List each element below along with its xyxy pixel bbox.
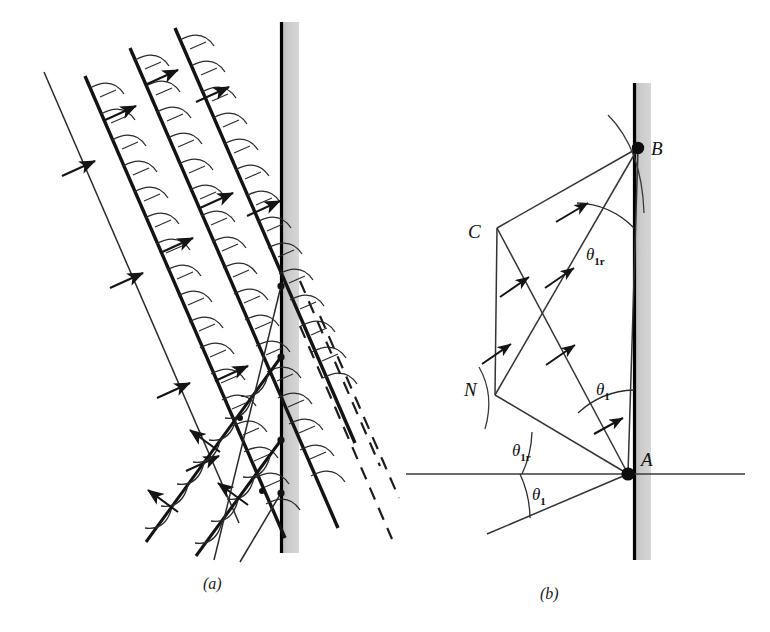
wavelet-arc-at-N xyxy=(479,367,489,429)
angle-label-theta1-A-bottom: θ1 xyxy=(532,485,546,507)
propagation-arrow xyxy=(62,161,95,176)
point-marker-A xyxy=(621,467,634,480)
point-label-C: C xyxy=(468,221,481,242)
huygens-wavelets xyxy=(180,35,357,384)
wavefront-line xyxy=(214,286,281,560)
propagation-arrow xyxy=(556,203,588,222)
angle-arcs xyxy=(520,203,634,518)
panel-b: B C N A θ1r θ1 θ1r θ1 xyxy=(406,83,745,560)
node xyxy=(277,282,284,289)
wavefront-line xyxy=(130,48,338,528)
wavelet-stems xyxy=(100,90,281,487)
dashed-wavefront xyxy=(320,316,399,498)
propagation-arrow xyxy=(218,483,248,505)
panel-b-caption: (b) xyxy=(540,585,559,603)
node xyxy=(277,353,284,360)
segment-N-to-A xyxy=(495,395,628,474)
dashed-continuations-a xyxy=(300,281,399,539)
barrier-b xyxy=(635,83,652,560)
panel-a-caption: (a) xyxy=(203,575,222,593)
wavefront-reflected-1 xyxy=(145,357,281,542)
wavefront-line xyxy=(146,357,281,542)
propagation-arrow xyxy=(482,344,511,364)
angle-label-theta1r-B: θ1r xyxy=(586,245,605,267)
node xyxy=(259,488,265,494)
incident-ray-to-A xyxy=(497,228,628,474)
figure-root: B C N A θ1r θ1 θ1r θ1 (a) (b) xyxy=(0,0,770,632)
dashed-wavefront xyxy=(300,281,380,466)
propagation-arrow xyxy=(157,383,190,398)
node xyxy=(277,436,284,443)
barrier-a-body xyxy=(283,22,299,553)
wavelet-arcs-b xyxy=(479,115,644,429)
propagation-arrow xyxy=(200,193,233,208)
point-label-N: N xyxy=(463,379,478,400)
angle-label-theta1r-A-lower: θ1r xyxy=(512,441,531,463)
huygens-wavelets xyxy=(90,83,300,510)
point-label-A: A xyxy=(639,449,653,470)
propagation-arrow xyxy=(594,418,623,434)
angle-label-theta1-A-upper: θ1 xyxy=(596,380,610,402)
point-marker-B xyxy=(632,142,644,154)
point-label-B: B xyxy=(651,138,663,159)
angle-arc-theta1-A-bottom xyxy=(520,474,530,518)
wavefront-incident-2 xyxy=(130,48,345,528)
incident-ray-lower xyxy=(487,474,628,534)
propagation-arrow xyxy=(148,490,178,512)
segment-C-to-N xyxy=(495,228,497,395)
propagation-arrow xyxy=(500,277,529,297)
propagation-arrow xyxy=(190,430,220,452)
propagation-arrow xyxy=(110,273,143,288)
angle-arc-theta1r-B xyxy=(577,203,634,228)
wavefront-reflected-3 xyxy=(214,286,281,560)
panel-a xyxy=(44,22,399,562)
node xyxy=(237,415,243,421)
physics-figure: B C N A θ1r θ1 θ1r θ1 xyxy=(0,0,770,632)
node xyxy=(277,489,284,496)
propagation-arrow xyxy=(145,70,178,85)
